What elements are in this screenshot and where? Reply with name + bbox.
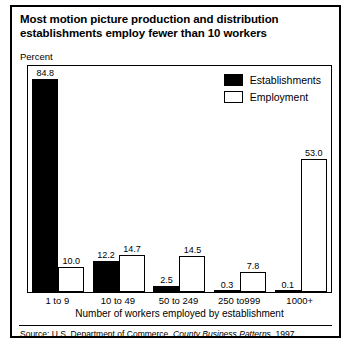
- chart-figure: Most motion picture production and distr…: [10, 5, 341, 338]
- bar-value-label: 12.2: [97, 250, 115, 260]
- x-axis-tick-label: 250 to999: [218, 295, 260, 306]
- x-axis-tick-label: 10 to 49: [101, 295, 135, 306]
- bar-value-label: 2.5: [160, 275, 173, 285]
- bar-group: 84.810.0: [28, 66, 89, 292]
- chart-title-line-2: establishments employ fewer than 10 work…: [20, 26, 332, 40]
- bar-wrapper: 2.5: [153, 66, 179, 292]
- chart-title-line-1: Most motion picture production and distr…: [20, 12, 332, 26]
- bar-wrapper: 0.1: [275, 66, 301, 292]
- bar-value-label: 7.8: [247, 261, 260, 271]
- bar-wrapper: 12.2: [93, 66, 119, 292]
- source-prefix: Source: U.S. Department of Commerce,: [20, 329, 173, 338]
- bar-establishments[interactable]: [32, 79, 58, 292]
- bar-wrapper: 0.3: [214, 66, 240, 292]
- bar-employment[interactable]: [179, 256, 205, 292]
- bar-group: 2.514.5: [149, 66, 210, 292]
- bar-establishments[interactable]: [214, 290, 240, 292]
- bar-wrapper: 7.8: [240, 66, 266, 292]
- plot-area: Establishments Employment 84.810.012.214…: [27, 65, 332, 293]
- x-axis-tick-label: 1 to 9: [45, 295, 69, 306]
- source-divider: [19, 325, 332, 326]
- chart-title: Most motion picture production and distr…: [20, 12, 332, 40]
- bar-wrapper: 14.7: [119, 66, 145, 292]
- bar-value-label: 0.3: [221, 280, 234, 290]
- bar-establishments[interactable]: [93, 261, 119, 292]
- source-note: Source: U.S. Department of Commerce, Cou…: [20, 329, 295, 338]
- x-axis-title: Number of workers employed by establishm…: [27, 308, 332, 319]
- bar-value-label: 14.7: [123, 244, 141, 254]
- bar-group: 0.37.8: [210, 66, 271, 292]
- bar-value-label: 10.0: [63, 256, 81, 266]
- bar-wrapper: 84.8: [32, 66, 58, 292]
- bar-employment[interactable]: [301, 159, 327, 292]
- bar-wrapper: 53.0: [301, 66, 327, 292]
- bar-group: 12.214.7: [89, 66, 150, 292]
- x-axis-tick-label: 50 to 249: [159, 295, 199, 306]
- bar-establishments[interactable]: [153, 286, 179, 292]
- bar-value-label: 14.5: [184, 245, 202, 255]
- bar-wrapper: 14.5: [179, 66, 205, 292]
- bars-area: 84.810.012.214.72.514.50.37.80.153.0: [28, 66, 331, 292]
- x-axis-tick-label: 1000+: [286, 295, 313, 306]
- bar-value-label: 84.8: [37, 68, 55, 78]
- bar-group: 0.153.0: [270, 66, 331, 292]
- x-axis-tick-labels: 1 to 910 to 4950 to 249250 to9991000+: [27, 295, 332, 309]
- bar-wrapper: 10.0: [58, 66, 84, 292]
- source-publication: County Business Patterns: [173, 329, 271, 338]
- source-suffix: , 1997: [271, 329, 295, 338]
- bar-value-label: 0.1: [281, 280, 294, 290]
- bar-establishments[interactable]: [275, 290, 301, 292]
- bar-employment[interactable]: [58, 267, 84, 292]
- y-axis-label: Percent: [20, 51, 53, 62]
- bar-employment[interactable]: [119, 255, 145, 292]
- bar-employment[interactable]: [240, 272, 266, 292]
- bar-value-label: 53.0: [305, 148, 323, 158]
